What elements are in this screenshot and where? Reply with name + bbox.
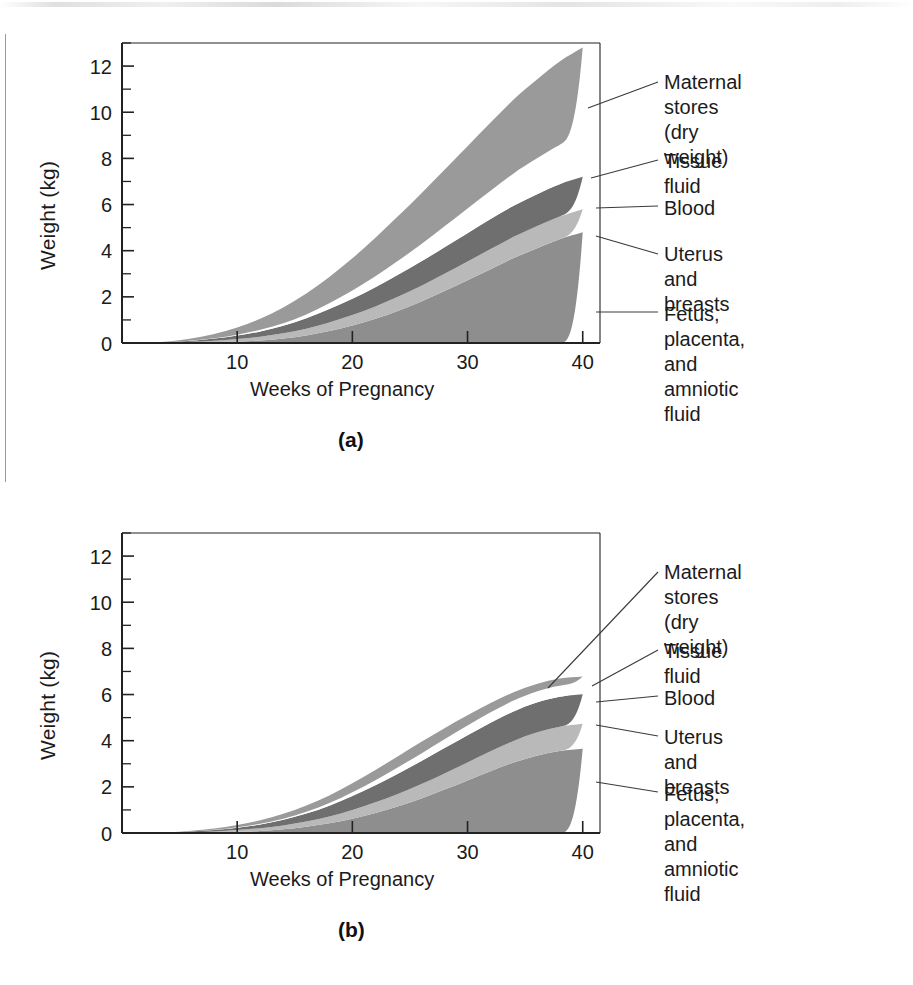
x-tick-label: 10 [226,841,248,863]
y-tick-label: 6 [101,684,112,706]
legend-leader-line-tissue-fluid [591,160,658,178]
scan-artifact-top-edge [0,2,913,7]
panel-caption-b: (b) [338,918,365,942]
y-tick-label: 8 [101,638,112,660]
plot-area-a: 02468101210203040 [0,20,913,420]
y-tick-label: 6 [101,194,112,216]
stacked-bands-group [122,48,583,343]
legend-leader-line-uterus-and-breasts [596,236,658,254]
legend-label-blood: Blood [664,686,715,711]
legend-leader-line-blood [596,206,658,208]
y-tick-label: 2 [101,286,112,308]
legend-label-fetus-placenta-amniotic-fluid: Fetus, placenta, and amniotic fluid [664,782,745,907]
y-tick-label: 0 [101,333,112,355]
legend-label-fetus-placenta-amniotic-fluid: Fetus, placenta, and amniotic fluid [664,302,745,427]
y-tick-label: 10 [90,592,112,614]
y-tick-label: 0 [101,823,112,845]
y-tick-label: 2 [101,776,112,798]
chart-panel-a: Weight (kg) 02468101210203040 Weeks of P… [0,20,913,490]
legend-label-tissue-fluid: Tissue fluid [664,639,722,689]
x-tick-label: 20 [341,351,363,373]
x-tick-label: 10 [226,351,248,373]
x-tick-label: 30 [456,841,478,863]
legend-leader-line-uterus-and-breasts [596,725,658,736]
y-tick-label: 12 [90,546,112,568]
legend-label-blood: Blood [664,196,715,221]
y-tick-label: 12 [90,56,112,78]
y-tick-label: 8 [101,148,112,170]
legend-leader-line-maternal-stores [588,82,658,108]
x-tick-label: 20 [341,841,363,863]
panel-caption-a: (a) [338,428,364,452]
x-tick-label: 40 [572,841,594,863]
legend-leader-line-maternal-stores [548,572,658,688]
legend-label-tissue-fluid: Tissue fluid [664,149,722,199]
x-tick-label: 40 [572,351,594,373]
y-tick-label: 10 [90,102,112,124]
y-tick-label: 4 [101,240,112,262]
legend-leader-line-blood [596,696,658,702]
y-tick-label: 4 [101,730,112,752]
x-axis-label-b: Weeks of Pregnancy [250,868,434,891]
x-axis-label-a: Weeks of Pregnancy [250,378,434,401]
x-tick-label: 30 [456,351,478,373]
chart-panel-b: Weight (kg) 02468101210203040 Weeks of P… [0,510,913,980]
legend-leader-line-tissue-fluid [592,650,658,686]
stacked-bands-group [122,677,583,833]
legend-leader-line-fetus [596,782,658,792]
plot-area-b: 02468101210203040 [0,510,913,910]
